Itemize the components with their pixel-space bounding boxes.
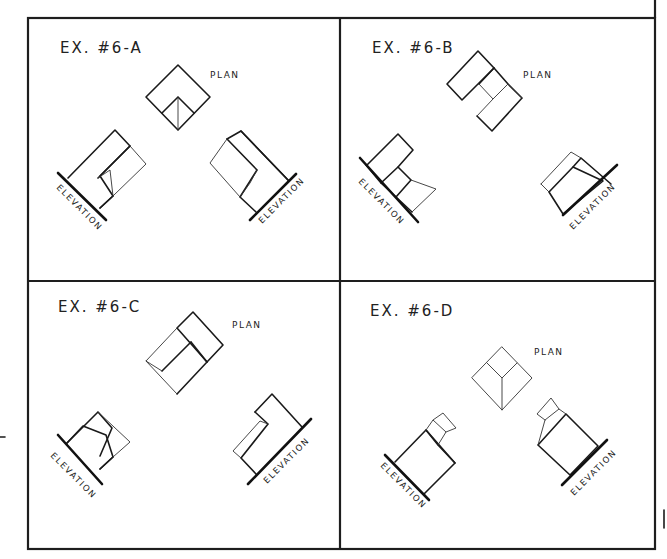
panel-title: EX. #6-D <box>370 302 454 320</box>
exercise-panels: EX. #6-APLANELEVATIONELEVATIONEX. #6-BPL… <box>49 39 619 511</box>
right-elevation-view: ELEVATION <box>233 394 312 485</box>
plan-label: PLAN <box>534 347 564 357</box>
left-elevation-view-line <box>411 180 436 212</box>
left-elevation-view: ELEVATION <box>379 413 456 511</box>
left-elevation-view-line <box>433 413 456 432</box>
plan-view-line <box>508 84 522 98</box>
panel-title: EX. #6-C <box>58 298 141 316</box>
elevation-label: ELEVATION <box>49 450 99 500</box>
plan-view-line <box>479 84 508 99</box>
left-elevation-view-edge <box>68 130 130 208</box>
left-elevation-view-edge <box>100 457 113 469</box>
sheet-frame <box>0 0 664 549</box>
plan-view <box>447 51 522 131</box>
right-elevation-view-edge <box>241 131 288 180</box>
plan-view-edge <box>191 342 207 362</box>
plan-view-edge <box>479 68 494 84</box>
plan-label: PLAN <box>523 70 553 80</box>
right-elevation-view-edge <box>241 412 268 474</box>
panel-title: EX. #6-B <box>372 39 455 57</box>
elevation-label: ELEVATION <box>55 182 105 232</box>
left-elevation-view-line <box>113 146 146 196</box>
right-elevation-view-edge <box>227 131 288 180</box>
left-elevation-view-edge <box>426 430 455 463</box>
right-elevation-view-edge <box>227 139 257 212</box>
panel-title: EX. #6-A <box>60 39 143 57</box>
panel-ex-6-b: EX. #6-BPLANELEVATIONELEVATION <box>357 39 618 231</box>
left-elevation-view: ELEVATION <box>49 412 130 501</box>
plan-view-line <box>477 99 493 116</box>
plan-view-edge <box>162 342 191 371</box>
plan-label: PLAN <box>232 320 262 330</box>
plan-view <box>472 347 532 410</box>
drawing-sheet: EX. #6-APLANELEVATIONELEVATIONEX. #6-BPL… <box>0 0 667 559</box>
right-elevation-view-line <box>537 398 559 420</box>
left-elevation-view-edge <box>100 196 113 208</box>
outer-border <box>28 18 655 549</box>
left-elevation-view-edge <box>98 146 130 178</box>
right-elevation-view-edge <box>573 158 611 184</box>
right-elevation-view-edge <box>538 414 598 475</box>
panel-ex-6-c: EX. #6-CPLANELEVATIONELEVATION <box>49 298 312 501</box>
right-elevation-view: ELEVATION <box>210 131 307 225</box>
plan-view-edge <box>177 362 207 394</box>
plan-view <box>146 312 223 394</box>
right-elevation-view: ELEVATION <box>537 398 619 497</box>
panel-ex-6-a: EX. #6-APLANELEVATIONELEVATION <box>55 39 307 233</box>
plan-label: PLAN <box>210 70 240 80</box>
left-elevation-view-edge <box>396 167 411 197</box>
left-elevation-view: ELEVATION <box>55 130 146 233</box>
right-elevation-view-line <box>233 421 268 458</box>
left-elevation-view: ELEVATION <box>357 134 436 227</box>
panel-ex-6-d: EX. #6-DPLANELEVATIONELEVATION <box>370 302 619 511</box>
elevation-label: ELEVATION <box>256 175 306 225</box>
elevation-label: ELEVATION <box>379 460 429 510</box>
right-elevation-view-line <box>541 184 549 192</box>
plan-view <box>146 65 210 130</box>
plan-view-line <box>487 363 517 378</box>
right-elevation-view: ELEVATION <box>541 152 618 231</box>
